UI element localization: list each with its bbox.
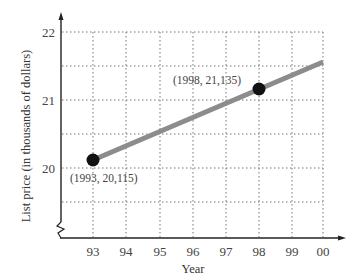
svg-text:20: 20 bbox=[42, 161, 55, 176]
svg-text:22: 22 bbox=[42, 25, 55, 40]
line-chart: (1993, 20,115) (1998, 21,135) 22 21 20 9… bbox=[0, 0, 357, 280]
svg-text:98: 98 bbox=[253, 244, 266, 259]
y-tick-labels: 22 21 20 bbox=[42, 25, 55, 176]
svg-text:96: 96 bbox=[187, 244, 201, 259]
svg-text:00: 00 bbox=[317, 244, 330, 259]
svg-text:99: 99 bbox=[286, 244, 299, 259]
x-axis-label: Year bbox=[181, 262, 205, 276]
axis-break-icon bbox=[57, 222, 64, 238]
y-axis-label: List price (in thousands of dollars) bbox=[19, 50, 33, 223]
point-label-1993: (1993, 20,115) bbox=[70, 172, 138, 185]
svg-text:21: 21 bbox=[42, 93, 55, 108]
data-point-1998 bbox=[253, 83, 266, 96]
svg-text:95: 95 bbox=[154, 244, 167, 259]
point-label-1998: (1998, 21,135) bbox=[173, 74, 241, 87]
y-axis-arrow-icon bbox=[59, 12, 64, 20]
data-point-1993 bbox=[87, 154, 100, 167]
svg-text:93: 93 bbox=[87, 244, 100, 259]
svg-text:97: 97 bbox=[220, 244, 234, 259]
svg-text:94: 94 bbox=[120, 244, 134, 259]
grid bbox=[62, 32, 323, 237]
x-tick-labels: 93 94 95 96 97 98 99 00 bbox=[87, 244, 330, 259]
axes bbox=[57, 18, 340, 238]
x-axis-arrow-icon bbox=[338, 236, 346, 241]
